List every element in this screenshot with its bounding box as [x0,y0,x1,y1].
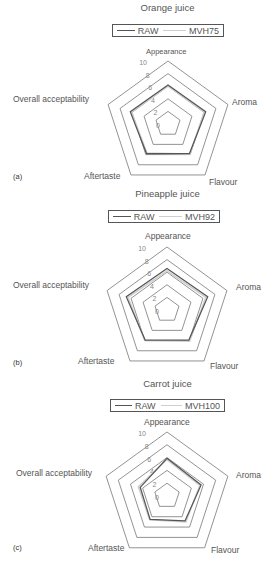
tick-label: 6 [147,270,151,277]
panel-carrot-juice: Carrot juice RAW MVH100 Appearance Aroma… [0,375,275,563]
tick-label: 0 [155,308,159,315]
series-raw [126,268,207,340]
tick-label: 10 [138,245,146,252]
radar-chart: 0246810 [0,375,275,563]
tick-label: 2 [153,109,157,116]
tick-label: 10 [138,430,146,437]
grid-ring [108,61,228,175]
tick-label: 0 [155,494,159,501]
tick-label: 8 [145,258,149,265]
grid-ring [107,247,227,361]
tick-label: 6 [148,84,152,91]
tick-label: 6 [147,456,151,463]
panel-pineapple-juice: Pineapple juice RAW MVH92 Appearance Aro… [0,185,275,375]
grid-ring [106,432,228,548]
radar-chart: 0246810 [0,0,275,188]
tick-label: 0 [156,122,160,129]
grid-ring [143,285,191,331]
tick-label: 8 [146,72,150,79]
tick-label: 8 [145,443,149,450]
tick-label: 2 [152,295,156,302]
radar-chart: 0246810 [0,185,275,375]
tick-label: 2 [152,481,156,488]
tick-label: 10 [139,59,147,66]
grid-ring [144,99,192,145]
panel-orange-juice: Orange juice RAW MVH75 Appearance Aroma … [0,0,275,188]
tick-label: 4 [150,283,154,290]
